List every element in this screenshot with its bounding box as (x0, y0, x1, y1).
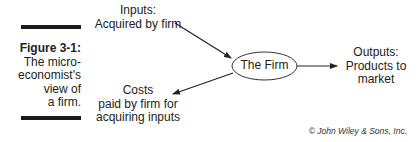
firm-node-label: The Firm (232, 59, 297, 73)
outputs-label: Outputs: Products to market (340, 46, 412, 87)
inputs-label: Inputs: Acquired by firm (88, 4, 188, 31)
costs-label: Costs paid by firm for acquiring inputs (88, 84, 188, 125)
copyright-credit: © John Wiley & Sons, Inc. (309, 126, 407, 136)
